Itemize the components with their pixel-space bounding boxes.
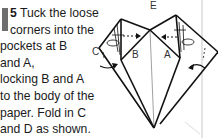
center-crease <box>150 30 154 128</box>
label-c: C <box>92 46 99 57</box>
fold-d-arrowhead-icon <box>188 64 194 70</box>
shadow-line <box>185 122 200 134</box>
right-arrowhead-icon <box>161 34 166 40</box>
origami-diagram: E B A C <box>0 0 218 138</box>
label-b: B <box>132 49 139 60</box>
label-a: A <box>164 49 171 60</box>
right-outer-edge <box>176 15 218 52</box>
fold-d-crease <box>203 48 205 60</box>
right-flap-lower <box>154 58 180 128</box>
right-peak-edge <box>150 15 176 30</box>
left-pocket-hatch <box>112 24 124 55</box>
left-arrowhead-icon <box>136 33 141 39</box>
left-tuck-loop-icon <box>107 40 119 46</box>
fold-c-arrow <box>100 66 115 68</box>
label-e: E <box>150 0 157 11</box>
left-flap-lower <box>121 60 154 128</box>
left-peak-edge <box>121 19 150 30</box>
